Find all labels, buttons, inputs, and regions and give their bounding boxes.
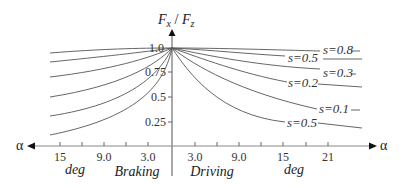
braking-label: Braking [114,164,159,179]
y-tick-0.75: 0.75 [145,65,166,79]
x-tick-left-3: 3.0 [141,150,156,164]
alpha-right-label: α [380,138,388,153]
deg-right-label: deg [284,162,304,177]
x-axis-left-arrow-icon [27,143,35,150]
x-tick-right-9: 9.0 [232,150,247,164]
y-tick-1.0: 1.0 [149,41,164,55]
label-s-0.5-top: s=0.5 [288,50,319,65]
label-s-0.1: s=0.1 [319,101,349,116]
x-ticks [60,142,328,146]
driving-label: Driving [189,164,234,179]
label-s-0.3: s=0.3 [323,65,354,80]
x-tick-right-21: 21 [322,150,334,164]
x-tick-right-3: 3.0 [188,150,203,164]
tire-force-diagram: Fx / Fz 1.0 0.75 0.5 0.25 α α 15 9.0 3.0… [0,0,408,188]
y-axis-arrow-icon [169,29,176,36]
label-s-0.5-bottom: s=0.5 [287,115,318,130]
alpha-left-label: α [16,138,24,153]
y-ticks [168,72,172,122]
x-tick-left-9: 9.0 [97,150,112,164]
y-axis-label: Fx / Fz [157,12,194,29]
deg-left-label: deg [65,162,85,177]
x-axis-right-arrow-icon [369,143,377,150]
driving-curves [172,48,362,128]
y-tick-0.5: 0.5 [151,90,166,104]
label-s-0.2: s=0.2 [288,75,319,90]
label-s-0.8: s=0.8 [323,42,354,57]
y-tick-0.25: 0.25 [145,115,166,129]
